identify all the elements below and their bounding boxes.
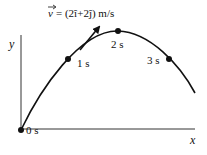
label-0s: 0 s — [26, 124, 39, 136]
label-2s: 2 s — [111, 38, 124, 50]
velocity-symbol: v — [48, 7, 53, 19]
projectile-diagram: y x 0 s 1 s 2 s 3 s v = (2î+2ĵ) m/s — [0, 0, 207, 155]
velocity-arrow — [80, 27, 99, 50]
point-1s — [65, 56, 71, 62]
label-1s: 1 s — [77, 57, 90, 69]
velocity-expression: = (2î+2ĵ) m/s — [56, 7, 114, 20]
point-0s — [18, 127, 24, 133]
point-3s — [166, 56, 172, 62]
x-axis-label: x — [189, 133, 196, 147]
point-2s — [115, 28, 121, 34]
y-axis-label: y — [8, 37, 15, 51]
label-3s: 3 s — [147, 54, 160, 66]
trajectory-curve — [21, 31, 195, 130]
